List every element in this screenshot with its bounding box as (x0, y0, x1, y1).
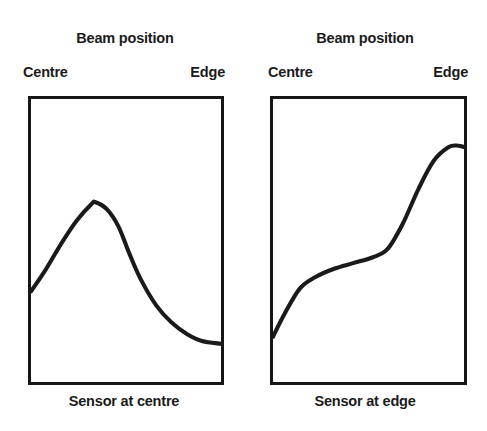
panel-sensor-at-centre: Beam position Centre Edge Sensor at cent… (0, 0, 250, 431)
axis-end-label-right: Edge (433, 62, 468, 82)
panel-caption-left: Sensor at centre (0, 392, 249, 410)
panel-sensor-at-edge: Beam position Centre Edge Sensor at edge (243, 0, 487, 431)
axis-end-labels-right: Centre Edge (268, 62, 468, 82)
curve-plot-left (31, 99, 221, 382)
axis-start-label-right: Centre (268, 62, 313, 82)
panel-caption-right: Sensor at edge (243, 392, 487, 410)
plot-frame-left (28, 96, 224, 385)
plot-frame-right (270, 96, 467, 385)
panel-title-left: Beam position (0, 30, 250, 47)
response-curve-right (273, 145, 464, 336)
axis-end-label-left: Edge (190, 62, 225, 82)
axis-end-labels-left: Centre Edge (23, 62, 225, 82)
figure-root: Beam position Centre Edge Sensor at cent… (0, 0, 487, 431)
axis-start-label-left: Centre (23, 62, 68, 82)
response-curve-left (31, 201, 221, 343)
curve-plot-right (273, 99, 464, 382)
panel-title-right: Beam position (243, 30, 487, 47)
